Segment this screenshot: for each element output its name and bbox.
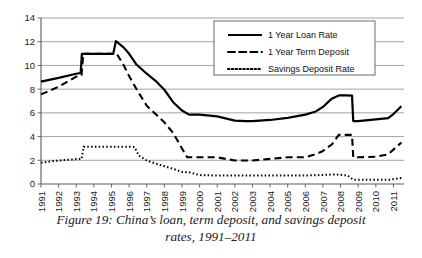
x-axis-tick-label: 2003 (247, 191, 258, 212)
series-line-3 (41, 147, 401, 180)
x-axis-tick-label: 2011 (388, 191, 399, 211)
y-axis-tick-label: 4 (30, 131, 35, 142)
x-axis-tick-label: 1996 (124, 191, 135, 212)
x-axis-tick-label: 2008 (335, 191, 346, 212)
legend-label-1: 1 Year Loan Rate (268, 30, 338, 40)
chart-plot-area: 0246810121419911992199319941995199619971… (0, 0, 422, 212)
legend-label-3: Savings Deposit Rate (268, 64, 355, 74)
x-axis-tick-label: 2007 (318, 191, 329, 212)
y-axis-tick-label: 0 (30, 178, 35, 189)
x-axis-tick-label: 1993 (71, 191, 82, 212)
x-axis-tick-label: 2004 (265, 191, 276, 212)
y-axis-tick-label: 14 (24, 12, 35, 23)
legend-label-2: 1 Year Term Deposit (268, 47, 349, 57)
y-axis-tick-label: 6 (30, 107, 35, 118)
x-axis-tick-label: 2010 (370, 191, 381, 212)
caption-line-1: Figure 19: China’s loan, term deposit, a… (0, 212, 422, 229)
x-axis-tick-label: 1997 (141, 191, 152, 212)
x-axis-tick-label: 1995 (106, 191, 117, 212)
x-axis-tick-label: 1992 (53, 191, 64, 212)
figure-container: 0246810121419911992199319941995199619971… (0, 0, 422, 258)
x-axis-tick-label: 2009 (353, 191, 364, 212)
y-axis-tick-label: 2 (30, 155, 35, 166)
y-axis-tick-label: 12 (24, 36, 35, 47)
caption-line-2: rates, 1991–2011 (0, 229, 422, 246)
x-axis-tick-label: 2005 (282, 191, 293, 212)
x-axis-tick-label: 2002 (229, 191, 240, 212)
figure-caption: Figure 19: China’s loan, term deposit, a… (0, 212, 422, 246)
y-axis-tick-label: 10 (24, 60, 35, 71)
x-axis-tick-label: 1999 (177, 191, 188, 212)
x-axis-tick-label: 1998 (159, 191, 170, 212)
x-axis-tick-label: 2006 (300, 191, 311, 212)
x-axis-tick-label: 2001 (212, 191, 223, 212)
line-chart: 0246810121419911992199319941995199619971… (0, 0, 422, 212)
y-axis-tick-label: 8 (30, 84, 35, 95)
x-axis-tick-label: 1991 (36, 191, 47, 212)
x-axis-tick-label: 2000 (194, 191, 205, 212)
x-axis-tick-label: 1994 (88, 191, 99, 212)
